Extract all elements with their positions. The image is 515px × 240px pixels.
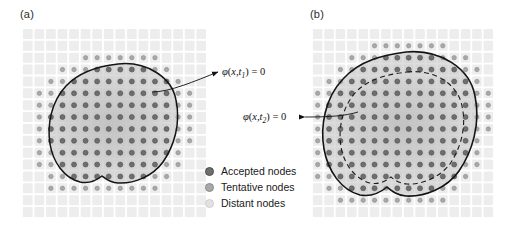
tentative-node [327,174,331,178]
accepted-node [418,79,423,84]
grid-cell [58,195,68,205]
accepted-node-icon [205,167,214,176]
accepted-node [95,126,100,131]
accepted-node [152,126,157,131]
legend-item-accepted: Accepted nodes [205,163,313,179]
accepted-node [349,103,354,108]
accepted-node [141,162,146,167]
accepted-node [429,103,434,108]
grid-cell [449,29,459,39]
tentative-node [72,186,76,190]
grid-cell [23,100,33,110]
grid-cell [34,53,44,63]
tentative-node [187,115,191,119]
accepted-node [440,103,445,108]
tentative-node [315,139,319,143]
accepted-node [72,150,77,155]
accepted-node [463,150,468,155]
accepted-node [372,138,377,143]
accepted-node [118,67,123,72]
grid-cell [381,29,391,39]
accepted-node [418,150,423,155]
accepted-node [383,91,388,96]
grid-cell [472,41,482,51]
grid-cell [139,195,149,205]
accepted-node [383,138,388,143]
accepted-node [418,174,423,179]
accepted-node [406,138,411,143]
accepted-node [152,79,157,84]
accepted-node [406,174,411,179]
panel-a-plot [22,28,207,218]
tentative-node [463,55,467,59]
accepted-node [361,174,366,179]
distant-node-icon [205,199,214,208]
accepted-node [418,126,423,131]
grid-cell [139,29,149,39]
tentative-node [486,115,490,119]
tentative-node [72,67,76,71]
accepted-node [452,126,457,131]
grid-cell [58,207,68,217]
tentative-node [315,103,319,107]
tentative-node [406,198,410,202]
accepted-node [406,103,411,108]
accepted-node [327,138,332,143]
accepted-node [395,79,400,84]
accepted-node [452,67,457,72]
grid-cell [139,207,149,217]
tentative-node [475,150,479,154]
grid-cell [104,207,114,217]
grid-cell [81,29,91,39]
grid-cell [484,148,494,158]
grid-cell [313,195,323,205]
grid-cell [185,148,195,158]
grid-cell [449,41,459,51]
accepted-node [395,126,400,131]
grid-cell [127,195,137,205]
annotation-phi-t2: φ(x,t2) = 0 [243,111,286,125]
accepted-node [83,103,88,108]
accepted-node [106,79,111,84]
accepted-node [118,162,123,167]
tentative-node [176,150,180,154]
tentative-node [49,186,53,190]
grid-cell [173,171,183,181]
accepted-node [349,79,354,84]
tentative-node [164,162,168,166]
accepted-node [440,138,445,143]
grid-cell [34,171,44,181]
accepted-node [129,174,134,179]
grid-cell [185,160,195,170]
tentative-node [384,44,388,48]
accepted-node [349,126,354,131]
accepted-node [106,138,111,143]
grid-cell [23,41,33,51]
grid-cell [196,112,206,122]
accepted-node [95,91,100,96]
tentative-node [338,198,342,202]
tentative-node [327,91,331,95]
tentative-node [153,55,157,59]
accepted-node [164,91,169,96]
grid-cell [484,136,494,146]
accepted-node [95,150,100,155]
grid-cell [484,183,494,193]
accepted-node [406,79,411,84]
accepted-node [349,162,354,167]
grid-cell [185,53,195,63]
grid-cell [415,29,425,39]
grid-cell [150,41,160,51]
grid-cell [313,76,323,86]
grid-cell [139,41,149,51]
tentative-node [463,67,467,71]
accepted-node [106,91,111,96]
accepted-node [361,91,366,96]
tentative-node [37,150,41,154]
accepted-node [95,162,100,167]
tentative-node [49,162,53,166]
grid-cell [23,124,33,134]
accepted-node [60,115,65,120]
tentative-node [164,174,168,178]
grid-cell [127,41,137,51]
